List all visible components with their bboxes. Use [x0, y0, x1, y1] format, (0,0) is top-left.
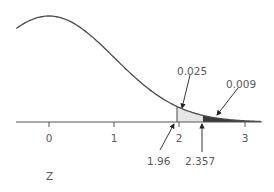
- arrow-0-025: [182, 75, 190, 108]
- arrow-1-96: [160, 124, 174, 150]
- tick-label-3: 3: [242, 132, 249, 144]
- tick-label-2: 2: [176, 132, 183, 144]
- x-axis-ticks: [49, 122, 245, 127]
- tick-label-0: 0: [46, 132, 53, 144]
- normal-distribution-chart: 0 1 2 3 0.025 0.009 1.96 2.357 Z: [0, 0, 274, 192]
- area-label-0-009: 0.009: [226, 78, 256, 90]
- arrow-0-009: [217, 88, 238, 115]
- area-label-0-025: 0.025: [177, 65, 207, 77]
- z-label-1-96: 1.96: [147, 155, 171, 167]
- tick-label-1: 1: [111, 132, 118, 144]
- axis-label-z: Z: [46, 170, 53, 182]
- z-label-2-357: 2.357: [185, 155, 215, 167]
